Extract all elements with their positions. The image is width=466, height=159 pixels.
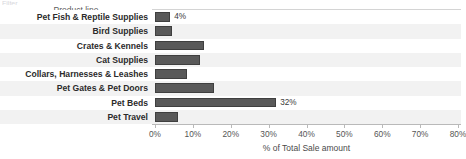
category-label: Bird Supplies — [93, 24, 148, 38]
bar-track — [155, 53, 461, 67]
bar[interactable] — [155, 12, 170, 22]
category-label: Pet Gates & Pet Doors — [57, 81, 148, 95]
bar[interactable] — [155, 55, 200, 65]
bar-rows-container: Pet Fish & Reptile Supplies4%Bird Suppli… — [0, 10, 466, 124]
bar-track — [155, 24, 461, 38]
category-label: Pet Fish & Reptile Supplies — [37, 10, 148, 24]
bar-value-label: 32% — [276, 96, 296, 110]
bar[interactable] — [155, 26, 172, 36]
bar[interactable] — [155, 98, 276, 108]
table-row: Pet Gates & Pet Doors — [0, 81, 466, 95]
product-line-bar-chart: Filter Product line Pet Fish & Reptile S… — [0, 0, 466, 159]
table-row: Crates & Kennels — [0, 39, 466, 53]
bar-track: 4% — [155, 10, 461, 24]
x-axis-tick — [420, 124, 421, 128]
x-axis-title: % of Total Sale amount — [152, 142, 461, 154]
x-axis-tick-label: 10% — [185, 129, 202, 140]
table-row: Bird Supplies — [0, 24, 466, 38]
x-axis-tick-label: 50% — [336, 129, 353, 140]
bar-track — [155, 67, 461, 81]
x-axis-tick-label: 70% — [412, 129, 429, 140]
bar-track — [155, 110, 461, 124]
x-axis-tick — [344, 124, 345, 128]
x-axis-tick — [458, 124, 459, 128]
x-axis-tick — [269, 124, 270, 128]
bar[interactable] — [155, 83, 214, 93]
category-label: Pet Travel — [107, 110, 148, 124]
bar-track — [155, 39, 461, 53]
category-label: Collars, Harnesses & Leashes — [25, 67, 148, 81]
table-row: Pet Fish & Reptile Supplies4% — [0, 10, 466, 24]
table-row: Collars, Harnesses & Leashes — [0, 67, 466, 81]
bar[interactable] — [155, 69, 187, 79]
table-row: Pet Beds32% — [0, 96, 466, 110]
x-axis-tick — [231, 124, 232, 128]
x-axis-tick-label: 20% — [222, 129, 239, 140]
x-axis-tick — [155, 124, 156, 128]
category-label: Pet Beds — [111, 96, 148, 110]
x-axis-tick — [193, 124, 194, 128]
table-row: Pet Travel — [0, 110, 466, 124]
x-axis-tick — [307, 124, 308, 128]
x-axis-tick-label: 60% — [374, 129, 391, 140]
bar-value-label: 4% — [170, 10, 186, 24]
bar[interactable] — [155, 41, 204, 51]
x-axis-tick-label: 30% — [260, 129, 277, 140]
table-row: Cat Supplies — [0, 53, 466, 67]
bar[interactable] — [155, 112, 178, 122]
x-axis-tick — [382, 124, 383, 128]
x-axis-tick-label: 80% — [450, 129, 466, 140]
category-label: Cat Supplies — [96, 53, 148, 67]
category-label: Crates & Kennels — [77, 39, 148, 53]
bar-track — [155, 81, 461, 95]
bar-track: 32% — [155, 96, 461, 110]
x-axis-tick-label: 0% — [149, 129, 161, 140]
x-axis-tick-label: 40% — [298, 129, 315, 140]
